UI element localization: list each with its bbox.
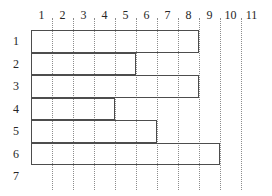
interval-bar-row-3[interactable]	[31, 75, 199, 98]
column-header-5: 5	[115, 8, 137, 22]
column-header-4: 4	[94, 8, 116, 22]
column-header-11: 11	[241, 8, 263, 22]
column-header-1: 1	[31, 8, 53, 22]
column-header-10: 10	[220, 8, 242, 22]
column-header-6: 6	[136, 8, 158, 22]
row-label-6: 6	[6, 148, 26, 160]
interval-bar-row-1[interactable]	[31, 30, 199, 53]
column-header-9: 9	[199, 8, 221, 22]
column-header-8: 8	[178, 8, 200, 22]
gridline-vertical	[220, 18, 222, 190]
row-label-2: 2	[6, 58, 26, 70]
interval-chart: 12345678910111234567	[0, 0, 272, 196]
row-label-7: 7	[6, 170, 26, 182]
interval-bar-row-2[interactable]	[31, 53, 136, 76]
row-label-3: 3	[6, 80, 26, 92]
interval-bar-row-6[interactable]	[31, 143, 220, 166]
row-label-4: 4	[6, 103, 26, 115]
gridline-vertical	[241, 18, 243, 190]
column-header-7: 7	[157, 8, 179, 22]
interval-bar-row-4[interactable]	[31, 98, 115, 121]
column-header-2: 2	[52, 8, 74, 22]
row-label-1: 1	[6, 35, 26, 47]
interval-bar-row-5[interactable]	[31, 120, 157, 143]
column-header-3: 3	[73, 8, 95, 22]
row-label-5: 5	[6, 125, 26, 137]
